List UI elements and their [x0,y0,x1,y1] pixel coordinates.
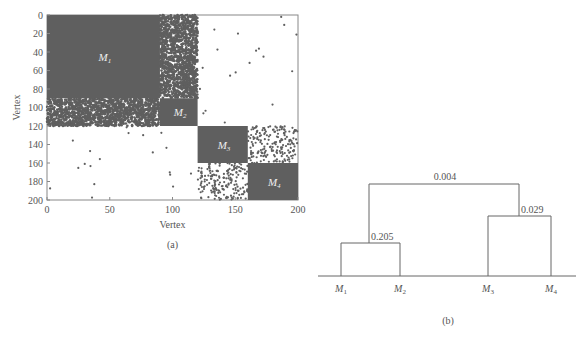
svg-text:80: 80 [33,84,43,95]
svg-text:0: 0 [38,10,43,21]
merge-value: 0.029 [521,204,544,215]
svg-text:40: 40 [33,47,43,58]
figure: M1M2M3M405010015020002040608010012014016… [0,0,587,340]
svg-text:200: 200 [291,204,306,215]
adjacency-matrix-plot: M1M2M3M405010015020002040608010012014016… [11,10,306,252]
merge-value: 0.004 [434,171,457,182]
leaf-label: M2 [393,283,406,296]
panel-label-b: (b) [442,315,454,327]
leaf-label: M3 [481,283,494,296]
svg-text:50: 50 [105,204,115,215]
dendrogram: 0.2050.0290.004M1M2M3M4(b) [318,171,576,327]
merge-value: 0.205 [371,231,394,242]
svg-text:120: 120 [28,121,43,132]
svg-text:160: 160 [28,158,43,169]
svg-text:100: 100 [28,102,43,113]
leaf-label: M1 [334,283,347,296]
svg-text:100: 100 [165,204,180,215]
x-axis-label: Vertex [159,219,185,230]
svg-text:140: 140 [28,139,43,150]
svg-text:0: 0 [45,204,50,215]
svg-text:180: 180 [28,176,43,187]
leaf-label: M4 [544,283,557,296]
panel-label-a: (a) [167,239,178,251]
y-axis-label: Vertex [11,94,22,120]
svg-text:20: 20 [33,28,43,39]
svg-text:150: 150 [228,204,243,215]
svg-text:200: 200 [28,195,43,206]
svg-text:60: 60 [33,65,43,76]
